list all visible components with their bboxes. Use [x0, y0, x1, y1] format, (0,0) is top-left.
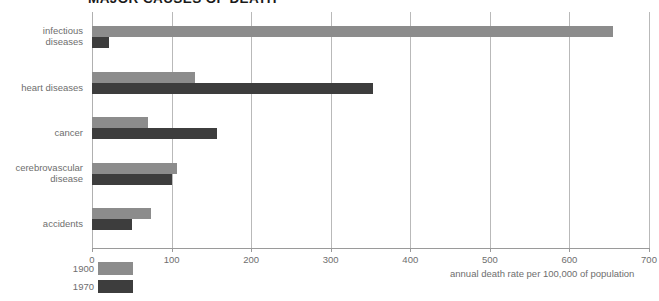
x-tick-600 — [569, 248, 570, 252]
bar-1970-3 — [92, 174, 172, 185]
category-label-4: accidents — [43, 218, 83, 229]
x-tick-100 — [172, 248, 173, 252]
category-label-2: cancer — [54, 127, 83, 138]
gridline-500 — [490, 12, 491, 248]
x-tick-500 — [490, 248, 491, 252]
plot-area — [92, 12, 649, 248]
gridline-600 — [569, 12, 570, 248]
x-tick-300 — [331, 248, 332, 252]
gridline-400 — [410, 12, 411, 248]
category-label-3: cerebrovascular disease — [15, 162, 83, 184]
x-tick-200 — [251, 248, 252, 252]
bar-1970-1 — [92, 83, 373, 94]
bar-1900-4 — [92, 208, 151, 219]
gridline-200 — [251, 12, 252, 248]
legend-item-1970[interactable]: 1970 — [60, 280, 133, 293]
bar-1970-0 — [92, 37, 109, 48]
x-tick-0 — [92, 248, 93, 252]
bar-1900-1 — [92, 72, 195, 83]
legend-item-1900[interactable]: 1900 — [60, 262, 133, 275]
bar-1970-2 — [92, 128, 217, 139]
bar-1970-4 — [92, 219, 132, 230]
x-tick-400 — [410, 248, 411, 252]
legend-label-1900: 1900 — [60, 263, 94, 274]
chart-root: MAJOR CAUSES OF DEATH 010020030040050060… — [0, 0, 659, 301]
x-axis-line — [92, 248, 650, 249]
axis-caption: annual death rate per 100,000 of populat… — [450, 268, 634, 279]
legend-label-1970: 1970 — [60, 281, 94, 292]
x-tick-700 — [649, 248, 650, 252]
category-label-1: heart diseases — [21, 82, 83, 93]
gridline-700 — [649, 12, 650, 248]
gridline-300 — [331, 12, 332, 248]
category-label-0: infectious diseases — [43, 25, 83, 47]
bar-1900-3 — [92, 163, 177, 174]
chart-title: MAJOR CAUSES OF DEATH — [88, 0, 277, 6]
bar-1900-0 — [92, 26, 613, 37]
legend-swatch-1970 — [98, 280, 133, 293]
bar-1900-2 — [92, 117, 148, 128]
legend-swatch-1900 — [98, 262, 133, 275]
